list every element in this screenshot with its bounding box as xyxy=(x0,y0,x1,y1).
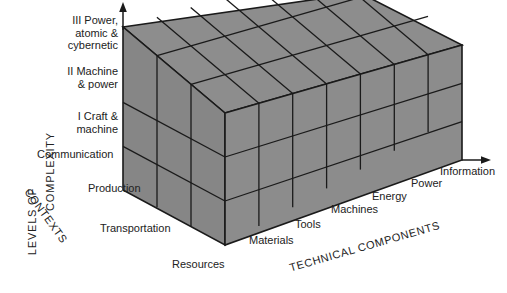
level-I-line2: machine xyxy=(54,123,118,136)
level-label-II: II Machine & power xyxy=(54,65,118,90)
level-I-line1: I Craft & xyxy=(54,110,118,123)
component-label-resources: Resources xyxy=(172,258,225,270)
context-label-transportation: Transportation xyxy=(100,222,171,234)
component-label-information: Information xyxy=(440,165,495,177)
level-II-line2: & power xyxy=(54,78,118,91)
component-label-machines: Machines xyxy=(331,203,378,215)
axis-label-complexity-line2: COMPLEXITY xyxy=(44,132,56,211)
level-III-line2: atomic & xyxy=(54,27,118,40)
component-label-materials: Materials xyxy=(249,234,294,246)
level-II-line1: II Machine xyxy=(54,65,118,78)
level-III-line3: cybernetic xyxy=(54,39,118,52)
level-label-III: III Power, atomic & cybernetic xyxy=(54,14,118,52)
right-arrow-icon xyxy=(462,156,491,164)
component-label-energy: Energy xyxy=(372,190,407,202)
level-label-I: I Craft & machine xyxy=(54,110,118,135)
diagram-canvas: LEVELS OF COMPLEXITY III Power, atomic &… xyxy=(0,0,507,293)
component-label-tools: Tools xyxy=(295,218,321,230)
level-III-line1: III Power, xyxy=(54,14,118,27)
component-label-power: Power xyxy=(411,177,442,189)
context-label-communication: Communication xyxy=(37,148,113,160)
up-arrow-icon xyxy=(119,2,127,30)
context-label-production: Production xyxy=(88,182,141,194)
